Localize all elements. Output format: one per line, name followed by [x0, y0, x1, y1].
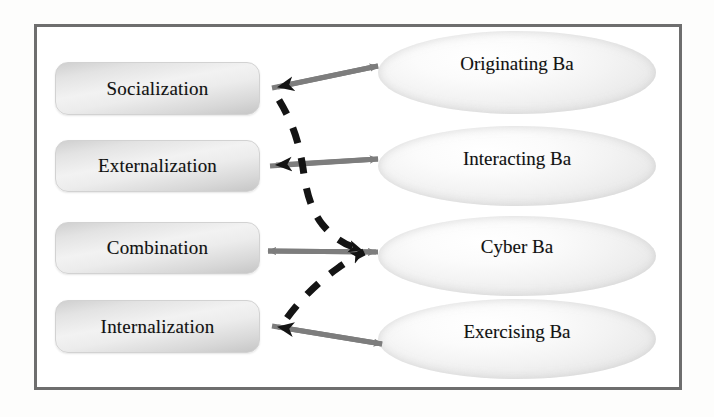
seci-box-internalization[interactable]: Internalization	[55, 300, 260, 353]
ba-ellipse-originating[interactable]: Originating Ba	[378, 31, 656, 114]
ba-label-originating: Originating Ba	[378, 53, 656, 75]
seci-label-externalization: Externalization	[98, 155, 217, 177]
ba-ellipse-cyber[interactable]: Cyber Ba	[378, 216, 656, 296]
seci-label-socialization: Socialization	[107, 78, 209, 100]
seci-label-combination: Combination	[107, 237, 208, 259]
ba-ellipse-interacting[interactable]: Interacting Ba	[378, 126, 656, 206]
seci-box-socialization[interactable]: Socialization	[55, 62, 260, 115]
ba-ellipse-exercising[interactable]: Exercising Ba	[378, 299, 656, 379]
diagram-canvas: Socialization Externalization Combinatio…	[0, 0, 714, 417]
ba-label-interacting: Interacting Ba	[378, 148, 656, 170]
ba-label-exercising: Exercising Ba	[378, 321, 656, 343]
seci-box-externalization[interactable]: Externalization	[55, 140, 260, 192]
seci-box-combination[interactable]: Combination	[55, 222, 260, 274]
seci-label-internalization: Internalization	[101, 316, 215, 338]
ba-label-cyber: Cyber Ba	[378, 236, 656, 258]
